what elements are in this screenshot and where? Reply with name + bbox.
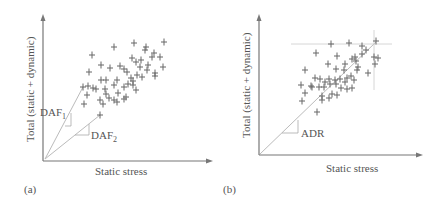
plus-marker [84, 92, 90, 99]
adr-label: ADR [301, 127, 324, 139]
panel-b: Total (static + dynamic) Static stress (… [220, 0, 443, 204]
plus-marker [371, 54, 377, 61]
plus-marker [342, 61, 348, 68]
plus-marker [117, 63, 123, 70]
plus-marker [130, 82, 136, 89]
panel-label: (a) [24, 183, 36, 195]
plus-marker [114, 77, 120, 84]
plus-marker [111, 82, 117, 89]
plus-marker [161, 39, 167, 46]
plus-marker [98, 62, 104, 69]
plus-marker [328, 41, 334, 48]
plus-marker [365, 70, 371, 77]
plus-marker [125, 81, 131, 88]
plus-marker [349, 85, 355, 92]
plus-marker [333, 81, 339, 88]
plus-marker [81, 101, 87, 108]
plus-marker [302, 90, 308, 97]
plus-marker [142, 47, 148, 54]
plus-marker [137, 64, 143, 71]
plus-marker [344, 86, 350, 93]
plus-marker [157, 54, 163, 61]
y-axis-label: Total (static + dynamic) [240, 33, 252, 138]
plus-marker [359, 43, 365, 50]
plus-marker [309, 84, 315, 91]
y-axis-label: Total (static + dynamic) [24, 37, 36, 142]
plus-marker [160, 64, 166, 71]
plus-marker [100, 101, 106, 108]
plus-marker [143, 44, 149, 51]
plus-marker [375, 55, 381, 62]
plus-marker [129, 55, 135, 62]
plus-marker [107, 65, 113, 72]
plus-marker [93, 86, 99, 93]
plus-marker [102, 86, 108, 93]
plus-marker [333, 66, 339, 73]
daf1-label: DAF1 [40, 106, 66, 121]
plus-marker [298, 82, 304, 89]
plus-marker [86, 69, 92, 76]
plus-marker [103, 91, 109, 98]
plus-marker [341, 67, 347, 74]
x-axis-label: Static stress [326, 162, 378, 174]
plus-marker [89, 52, 95, 59]
plus-marker [326, 76, 332, 83]
plus-marker [308, 83, 314, 90]
plus-marker [314, 109, 320, 116]
plus-marker [103, 77, 109, 84]
plus-marker [334, 92, 340, 99]
panel-a: Total (static + dynamic) Static stress (… [0, 0, 220, 204]
plus-marker [144, 67, 150, 74]
plus-marker [355, 64, 361, 71]
plus-marker [334, 53, 340, 60]
plus-marker [359, 51, 365, 58]
plus-marker [152, 70, 158, 77]
plus-marker [299, 98, 305, 105]
plus-marker [80, 84, 86, 91]
plus-marker [97, 97, 103, 104]
plus-marker [121, 66, 127, 73]
plus-marker [363, 47, 369, 54]
plus-marker [346, 40, 352, 47]
plus-marker [325, 61, 331, 68]
plus-marker [351, 77, 357, 84]
plus-marker [124, 69, 130, 76]
plus-marker [326, 95, 332, 102]
plus-marker [354, 67, 360, 74]
plus-marker [133, 87, 139, 94]
plus-marker [317, 76, 323, 83]
plus-marker [321, 84, 327, 91]
plus-marker [115, 90, 121, 97]
daf2-label: DAF2 [91, 129, 117, 144]
panel-label: (b) [223, 183, 236, 195]
plus-marker [329, 91, 335, 98]
plus-marker [337, 76, 343, 83]
plus-marker [121, 84, 127, 91]
plus-marker [312, 75, 318, 82]
plus-marker [372, 61, 378, 68]
plus-marker [338, 85, 344, 92]
plus-marker [319, 97, 325, 104]
plus-marker [111, 44, 117, 51]
plus-marker [131, 40, 137, 47]
plus-marker [302, 67, 308, 74]
plus-marker [97, 112, 103, 119]
plus-marker [332, 77, 338, 84]
x-axis-label: Static stress [95, 165, 147, 177]
data-points-a [80, 39, 167, 119]
plus-marker [145, 62, 151, 69]
plus-marker [313, 50, 319, 57]
